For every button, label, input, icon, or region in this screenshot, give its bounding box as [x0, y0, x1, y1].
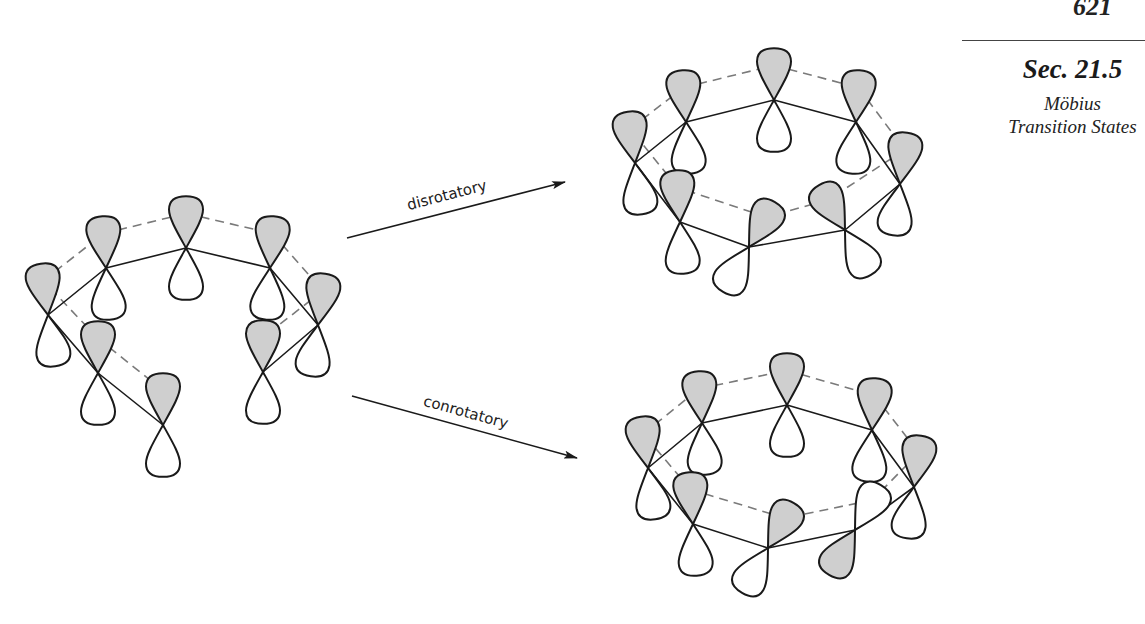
upper-lobe — [839, 69, 877, 123]
p-orbital — [883, 130, 924, 186]
upper-lobe — [301, 271, 342, 327]
p-orbital — [839, 69, 877, 123]
conrotatory-label: conrotatory — [421, 392, 510, 433]
sigma-bond — [787, 405, 872, 430]
upper-lobe — [897, 433, 938, 489]
sigma-bond — [106, 248, 186, 268]
p-orbital — [757, 48, 791, 100]
upper-lobe — [169, 196, 203, 248]
lower-lobe — [294, 323, 335, 379]
lower-lobe — [876, 182, 917, 238]
upper-lobe — [146, 373, 180, 425]
p-orbital — [611, 109, 652, 165]
reaction-arrows: disrotatoryconrotatory — [347, 176, 577, 458]
p-orbital — [770, 353, 804, 405]
lower-lobe — [676, 523, 714, 577]
sigma-bond — [186, 248, 270, 268]
upper-lobe — [804, 177, 859, 239]
lower-lobe — [757, 100, 791, 152]
lower-lobe — [814, 522, 869, 584]
sigma-bond — [774, 100, 856, 122]
upper-lobe — [672, 471, 710, 525]
lower-lobe — [81, 373, 115, 425]
lower-lobe — [146, 425, 180, 477]
p-orbital — [681, 370, 719, 424]
sigma-bonds — [48, 100, 914, 548]
lower-lobe — [890, 485, 931, 541]
sigma-bond — [686, 100, 774, 122]
lower-lobe — [631, 466, 672, 522]
lower-lobe — [31, 313, 72, 369]
lower-lobe — [663, 221, 701, 275]
lower-lobe — [708, 239, 763, 301]
upper-lobe — [681, 370, 719, 424]
p-orbital — [665, 69, 703, 123]
upper-lobe — [659, 169, 697, 223]
p-orbital — [624, 414, 665, 470]
lower-lobe — [685, 422, 723, 476]
upper-lobe — [611, 109, 652, 165]
upper-lobe — [757, 48, 791, 100]
lower-lobe — [169, 248, 203, 300]
upper-lobe — [855, 377, 893, 431]
p-orbital — [81, 321, 115, 373]
sigma-bond — [702, 405, 787, 423]
lower-lobe — [770, 405, 804, 457]
disrotatory-label: disrotatory — [405, 176, 489, 214]
lower-lobe — [835, 121, 873, 175]
upper-lobe — [734, 194, 789, 256]
p-orbital — [24, 261, 65, 317]
lower-lobe — [249, 267, 287, 321]
upper-lobe — [246, 320, 280, 372]
p-orbital — [169, 196, 203, 248]
upper-lobe — [24, 261, 65, 317]
upper-lobe — [253, 215, 291, 269]
p-orbital — [246, 320, 280, 372]
upper-lobe — [624, 414, 665, 470]
upper-lobe — [665, 69, 703, 123]
upper-lobe — [770, 353, 804, 405]
p-orbital — [85, 215, 123, 269]
p-orbital — [253, 215, 291, 269]
upper-lobe — [81, 321, 115, 373]
p-orbital — [753, 495, 808, 557]
p-orbital — [672, 471, 710, 525]
lower-lobe — [246, 372, 280, 424]
p-orbital — [301, 271, 342, 327]
upper-lobe — [85, 215, 123, 269]
p-orbital — [897, 433, 938, 489]
orbital-diagram: disrotatoryconrotatory — [0, 0, 1145, 624]
upper-lobe — [883, 130, 924, 186]
lower-lobe — [669, 121, 707, 175]
upper-lobe — [753, 495, 808, 557]
p-orbital — [804, 177, 859, 239]
lower-lobe — [89, 267, 127, 321]
p-orbital — [659, 169, 697, 223]
p-orbital — [855, 377, 893, 431]
p-orbital — [146, 373, 180, 425]
lower-lobe — [727, 540, 782, 602]
lower-lobe — [851, 429, 889, 483]
upper-lobes — [24, 48, 938, 556]
p-orbital — [734, 194, 789, 256]
